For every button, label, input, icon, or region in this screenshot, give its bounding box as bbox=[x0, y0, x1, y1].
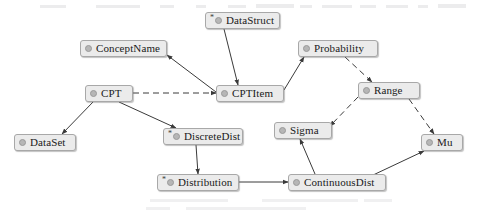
node-continuousdist[interactable]: ContinuousDist bbox=[288, 174, 386, 191]
class-glyph-icon bbox=[221, 90, 228, 97]
node-label: ConceptName bbox=[96, 43, 160, 54]
node-label: Probability bbox=[314, 43, 364, 54]
abstract-marker-icon: * bbox=[162, 176, 166, 184]
node-datastruct[interactable]: * DataStruct bbox=[205, 12, 280, 29]
node-label: DiscreteDist bbox=[184, 131, 240, 142]
abstract-marker-icon: * bbox=[168, 130, 172, 138]
node-label: Mu bbox=[437, 137, 452, 148]
class-glyph-icon bbox=[85, 45, 92, 52]
class-glyph-icon bbox=[90, 90, 97, 97]
node-label: Range bbox=[374, 85, 403, 96]
node-probability[interactable]: Probability bbox=[298, 40, 378, 57]
node-distribution[interactable]: * Distribution bbox=[157, 174, 239, 191]
node-label: DataStruct bbox=[226, 15, 274, 26]
node-discretedist[interactable]: * DiscreteDist bbox=[163, 128, 243, 145]
abstract-marker-icon: * bbox=[210, 14, 214, 22]
node-label: ContinuousDist bbox=[304, 177, 374, 188]
class-glyph-icon bbox=[426, 139, 433, 146]
class-glyph-icon bbox=[19, 139, 26, 146]
node-dataset[interactable]: DataSet bbox=[14, 134, 76, 151]
node-label: Sigma bbox=[290, 125, 319, 136]
class-glyph-icon bbox=[279, 127, 286, 134]
node-conceptname[interactable]: ConceptName bbox=[80, 40, 167, 57]
node-label: CPTItem bbox=[232, 88, 273, 99]
node-mu[interactable]: Mu bbox=[421, 134, 463, 151]
class-glyph-icon bbox=[215, 17, 222, 24]
class-glyph-icon bbox=[293, 179, 300, 186]
node-range[interactable]: Range bbox=[358, 82, 420, 99]
class-glyph-icon bbox=[363, 87, 370, 94]
diagram-canvas: * DataStruct ConceptName Probability CPT… bbox=[0, 0, 481, 212]
node-sigma[interactable]: Sigma bbox=[274, 122, 332, 139]
node-label: Distribution bbox=[178, 177, 232, 188]
node-cpt[interactable]: CPT bbox=[85, 85, 133, 102]
node-label: DataSet bbox=[30, 137, 66, 148]
class-glyph-icon bbox=[303, 45, 310, 52]
class-glyph-icon bbox=[173, 133, 180, 140]
class-glyph-icon bbox=[167, 179, 174, 186]
node-label: CPT bbox=[101, 88, 121, 99]
node-layer: * DataStruct ConceptName Probability CPT… bbox=[0, 0, 481, 212]
node-cptitem[interactable]: CPTItem bbox=[216, 85, 284, 102]
